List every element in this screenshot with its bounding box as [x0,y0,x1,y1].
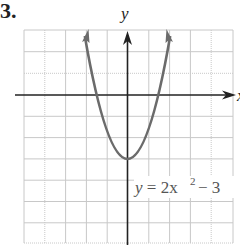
svg-text:− 3: − 3 [198,178,220,197]
y-axis-label: y [119,4,129,23]
svg-text:y = 2x: y = 2x [133,178,178,197]
svg-text:2: 2 [190,175,196,187]
graph: y x y = 2x 2 − 3 [0,0,240,245]
x-axis-label: x [236,86,240,105]
grid [24,30,233,243]
equation-label: y = 2x 2 − 3 [133,175,234,198]
